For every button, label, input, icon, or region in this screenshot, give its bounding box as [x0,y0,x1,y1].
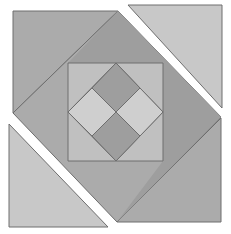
geometric-figure-canvas [0,0,231,234]
quilt-block-diagram [0,0,231,234]
